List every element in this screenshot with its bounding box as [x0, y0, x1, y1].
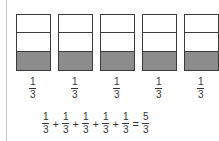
unshaded-part	[143, 33, 176, 52]
box-label-5: 1 3	[197, 77, 205, 100]
result: 5 3	[142, 112, 150, 135]
unshaded-part	[101, 15, 134, 33]
denominator: 3	[198, 90, 204, 100]
term-1: 1 3	[42, 112, 50, 135]
denominator: 3	[30, 90, 36, 100]
box-label-4: 1 3	[155, 77, 163, 100]
term-5: 1 3	[122, 112, 130, 135]
numerator: 1	[71, 77, 79, 87]
shaded-part	[101, 52, 134, 70]
box-label-1: 1 3	[29, 77, 37, 100]
unshaded-part	[101, 33, 134, 52]
denominator: 3	[72, 90, 78, 100]
numerator: 1	[29, 77, 37, 87]
term-4: 1 3	[102, 112, 110, 135]
denominator: 3	[63, 125, 69, 135]
denominator: 3	[156, 90, 162, 100]
numerator: 1	[113, 77, 121, 87]
numerator: 1	[122, 112, 130, 122]
plus-sign: +	[53, 118, 59, 130]
unshaded-part	[17, 15, 50, 33]
fraction-box-3	[100, 14, 135, 71]
margin-line	[6, 0, 7, 141]
term-3: 1 3	[82, 112, 90, 135]
fraction-box-1	[16, 14, 51, 71]
unshaded-part	[185, 15, 218, 33]
fraction-box-5	[184, 14, 219, 71]
numerator: 1	[102, 112, 110, 122]
fraction-box-4	[142, 14, 177, 71]
shaded-part	[143, 52, 176, 70]
unshaded-part	[59, 15, 92, 33]
denominator: 3	[143, 125, 149, 135]
box-label-2: 1 3	[71, 77, 79, 100]
numerator: 5	[142, 112, 150, 122]
numerator: 1	[155, 77, 163, 87]
numerator: 1	[197, 77, 205, 87]
plus-sign: +	[93, 118, 99, 130]
plus-sign: +	[113, 118, 119, 130]
shaded-part	[17, 52, 50, 70]
equals-sign: =	[133, 118, 139, 130]
unshaded-part	[143, 15, 176, 33]
term-2: 1 3	[62, 112, 70, 135]
denominator: 3	[103, 125, 109, 135]
plus-sign: +	[73, 118, 79, 130]
shaded-part	[59, 52, 92, 70]
unshaded-part	[17, 33, 50, 52]
unshaded-part	[59, 33, 92, 52]
numerator: 1	[62, 112, 70, 122]
denominator: 3	[123, 125, 129, 135]
denominator: 3	[83, 125, 89, 135]
denominator: 3	[43, 125, 49, 135]
sum-equation: 1 3 + 1 3 + 1 3 + 1 3 + 1 3 = 5 3	[42, 112, 150, 135]
box-label-3: 1 3	[113, 77, 121, 100]
numerator: 1	[82, 112, 90, 122]
shaded-part	[185, 52, 218, 70]
fraction-box-2	[58, 14, 93, 71]
numerator: 1	[42, 112, 50, 122]
denominator: 3	[114, 90, 120, 100]
unshaded-part	[185, 33, 218, 52]
